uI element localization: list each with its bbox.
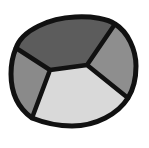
pie-chart-icon: [0, 0, 149, 148]
